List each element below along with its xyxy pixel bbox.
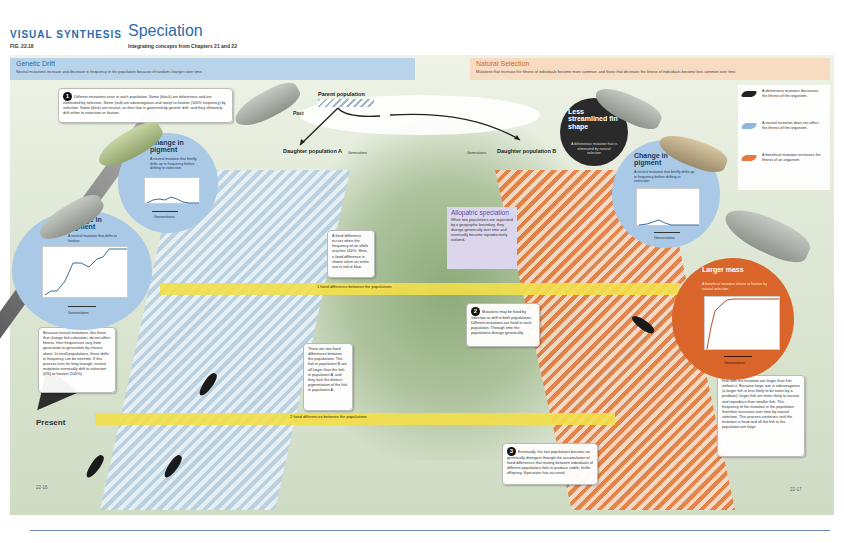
- generations-arrow-icon: [152, 211, 178, 212]
- figure-label: FIG. 22.18: [10, 43, 34, 49]
- page-number-right: 22-17: [790, 487, 802, 492]
- fin-shape-text: A deleterious mutation that is eliminate…: [570, 142, 618, 156]
- pigment-a-extinction-text: A neutral mutation that briefly drifts u…: [150, 157, 204, 171]
- fixed-difference-callout: A fixed difference occurs when the frequ…: [327, 230, 375, 278]
- generations-arrow-icon: [654, 232, 680, 233]
- pigment-a-fixation-text: A neutral mutation that drifts to fixati…: [68, 234, 118, 243]
- pigment-a-fixation-chart: [42, 246, 128, 298]
- page-subtitle: Integrating concepts from Chapters 21 an…: [128, 43, 237, 49]
- allopatric-title: Allopatric speciation: [451, 210, 513, 217]
- pigment-a-fixation-circle: Change in pigment A neutral mutation tha…: [12, 210, 152, 330]
- divergence-arrows-icon: [280, 100, 580, 155]
- deleterious-swatch-icon: [740, 91, 757, 97]
- step-2-callout: 2Mutations may be fixed by selection or …: [466, 303, 540, 347]
- larger-mass-text: A beneficial mutation driven to fixation…: [702, 282, 772, 291]
- natural-selection-band: Natural Selection Mutations that increas…: [470, 58, 830, 80]
- step-3-callout: 3Eventually, the two populations become …: [502, 443, 598, 485]
- step-3-text: Eventually, the two populations become s…: [507, 450, 593, 476]
- step-1-number: 1: [63, 92, 72, 101]
- allopatric-speciation-box: Allopatric speciation When two populatio…: [447, 207, 517, 269]
- larger-mass-title: Larger mass: [702, 266, 752, 273]
- larger-explanation-callout: Fish with the mutation are larger than f…: [717, 375, 805, 457]
- genetic-drift-title: Genetic Drift: [16, 60, 55, 67]
- step-1-callout: 1Different mutations arise in each popul…: [58, 88, 233, 123]
- natural-selection-title: Natural Selection: [476, 60, 529, 67]
- pigment-b-chart: [636, 188, 700, 226]
- larger-mass-circle: Larger mass A beneficial mutation driven…: [672, 258, 794, 380]
- generations-arrow-icon: [68, 306, 96, 307]
- generations-label: Generations: [654, 236, 675, 240]
- two-fixed-callout: There are two fixed differences between …: [303, 343, 353, 411]
- generations-label: Generations: [68, 311, 89, 315]
- page-number-left: 22-16: [36, 485, 48, 490]
- generations-arrow-icon: [724, 356, 752, 357]
- generations-label: Generations: [724, 361, 745, 365]
- natural-selection-description: Mutations that increase the fitness of i…: [476, 70, 736, 74]
- fixed-bar-two-label: 2 fixed differences between the populati…: [288, 414, 369, 419]
- step-2-text: Mutations may be fixed by selection or d…: [471, 310, 532, 336]
- step-1-text: Different mutations arise in each popula…: [63, 95, 226, 116]
- footer-rule: [30, 530, 830, 531]
- pigment-b-text: A neutral mutation that briefly drifts u…: [634, 170, 696, 184]
- genetic-drift-description: Neutral mutations increase and decrease …: [16, 70, 203, 74]
- allopatric-text: When two populations are separated by a …: [451, 218, 513, 244]
- fixed-bar-one: [160, 283, 680, 295]
- neutral-explanation-callout: Because neutral mutations, like these th…: [38, 327, 116, 393]
- legend-beneficial-text: A beneficial mutation increases the fitn…: [762, 153, 824, 163]
- mutation-legend: A deleterious mutation decreases the fit…: [738, 85, 830, 190]
- legend-deleterious-text: A deleterious mutation decreases the fit…: [762, 89, 824, 99]
- fixed-bar-one-label: 1 fixed difference between the populatio…: [315, 284, 394, 289]
- section-label: VISUAL SYNTHESIS: [10, 29, 122, 40]
- larger-mass-chart: [704, 296, 780, 350]
- genetic-drift-band: Genetic Drift Neutral mutations increase…: [10, 58, 415, 80]
- pigment-a-extinction-chart: [144, 177, 200, 204]
- legend-neutral-text: A neutral mutation does not affect the f…: [762, 121, 824, 131]
- page-title: Speciation: [128, 22, 203, 40]
- step-3-number: 3: [507, 447, 516, 456]
- neutral-swatch-icon: [740, 123, 757, 129]
- step-2-number: 2: [471, 307, 480, 316]
- parent-population-label: Parent population: [318, 91, 365, 97]
- generations-label: Generations: [154, 215, 175, 219]
- present-label: Present: [36, 418, 65, 427]
- beneficial-swatch-icon: [740, 155, 757, 161]
